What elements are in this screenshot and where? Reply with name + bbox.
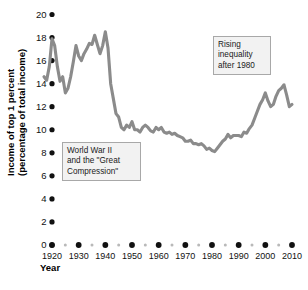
y-axis-tick-dot	[49, 12, 54, 17]
x-axis-major-tick-dot	[102, 242, 108, 248]
annotation-ww2-great-compression: World War II and the "Great Compression"	[62, 142, 141, 181]
x-axis-minor-tick-dots	[64, 244, 280, 247]
x-axis-minor-tick-dot	[91, 244, 94, 247]
x-axis-tick-label: 1960	[149, 251, 169, 261]
x-axis-tick-labels: 1920193019401950196019701980199020002010	[42, 251, 302, 261]
y-axis-tick-label: 4	[41, 193, 46, 204]
y-axis-tick-label: 20	[36, 9, 47, 20]
y-axis-tick-label: 12	[36, 101, 47, 112]
y-axis-tick-dot	[49, 219, 54, 224]
y-axis-tick-dot	[49, 104, 54, 109]
x-axis-major-tick-dot	[209, 242, 215, 248]
y-axis-tick-label: 0	[41, 239, 46, 250]
x-axis-minor-tick-dot	[171, 244, 174, 247]
x-axis-minor-tick-dot	[277, 244, 280, 247]
x-axis-tick-label: 1940	[95, 251, 115, 261]
y-axis-tick-label: 8	[41, 147, 46, 158]
y-axis-tick-dot	[49, 150, 54, 155]
x-axis-minor-tick-dot	[117, 244, 120, 247]
x-axis-tick-label: 1950	[122, 251, 142, 261]
x-axis-tick-label: 1990	[229, 251, 249, 261]
x-axis-major-tick-dot	[156, 242, 162, 248]
y-axis-tick-label: 10	[36, 124, 47, 135]
y-axis-tick-label: 18	[36, 32, 47, 43]
x-axis-tick-label: 2010	[282, 251, 302, 261]
x-axis-title: Year	[40, 262, 60, 273]
y-axis-tick-dot	[49, 173, 54, 178]
y-axis-tick-label: 16	[36, 55, 47, 66]
y-axis-tick-label: 2	[41, 216, 46, 227]
y-axis-tick-dot	[49, 127, 54, 132]
x-axis-minor-tick-dot	[251, 244, 254, 247]
x-axis-major-tick-dot	[49, 242, 55, 248]
chart-figure: 02468101214161820 1920193019401950196019…	[0, 0, 308, 290]
y-axis-tick-dot	[49, 196, 54, 201]
x-axis-minor-tick-dot	[144, 244, 147, 247]
y-axis-title-line-2: (percentage of total income)	[16, 49, 27, 176]
x-axis-major-tick-dot	[129, 242, 135, 248]
x-axis-tick-label: 1920	[42, 251, 62, 261]
x-axis-minor-tick-dot	[64, 244, 67, 247]
x-axis-major-tick-dot	[262, 242, 268, 248]
y-axis-tick-label: 6	[41, 170, 46, 181]
y-axis-tick-dot	[49, 81, 54, 86]
x-axis-tick-label: 1970	[175, 251, 195, 261]
x-axis-tick-label: 1980	[202, 251, 222, 261]
x-axis-tick-label: 1930	[69, 251, 89, 261]
annotation-rising-inequality: Rising inequality after 1980	[213, 36, 271, 75]
x-axis-major-tick-dot	[236, 242, 242, 248]
y-axis-title-line-1: Income of top 1 percent	[5, 68, 16, 176]
x-axis-minor-tick-dot	[197, 244, 200, 247]
x-axis-major-tick-dot	[289, 242, 295, 248]
x-axis-tick-label: 2000	[255, 251, 275, 261]
x-axis-major-tick-dot	[182, 242, 188, 248]
x-axis-major-tick-dot	[76, 242, 82, 248]
y-axis-tick-labels: 02468101214161820	[36, 9, 47, 251]
x-axis-minor-tick-dot	[224, 244, 227, 247]
